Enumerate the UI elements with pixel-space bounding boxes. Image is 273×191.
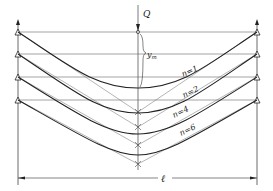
deflection-brace [140, 34, 146, 87]
load-label: Q [143, 9, 151, 19]
left-up-arrow-icon [16, 19, 20, 25]
span-arrow-right-icon [250, 177, 257, 180]
curve-label-n4: n=4 [171, 104, 190, 120]
span-arrow-left-icon [18, 177, 25, 180]
right-up-arrow-icon [255, 19, 259, 25]
cable-deflection-diagram: Q ym n=1 n=2 [0, 0, 273, 191]
deflection-curves [18, 32, 257, 155]
reference-lines [18, 32, 257, 100]
curve-n4 [18, 77, 257, 134]
support-triangles [15, 29, 260, 103]
curve-n1 [18, 32, 257, 88]
load-arrow-icon [136, 24, 140, 31]
deflection-label: ym [146, 50, 157, 60]
curve-label-n1: n=1 [180, 64, 199, 79]
span-label: ℓ [161, 173, 165, 184]
curve-n2 [18, 54, 257, 113]
